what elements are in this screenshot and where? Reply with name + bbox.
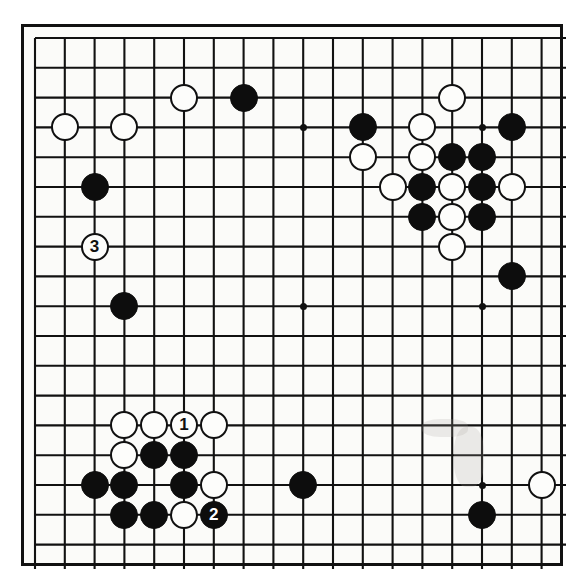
stone-black[interactable]: [230, 84, 258, 112]
star-point: [479, 303, 486, 310]
stone-black[interactable]: [110, 501, 138, 529]
go-board[interactable]: 312: [21, 24, 563, 566]
stone-black[interactable]: [468, 501, 496, 529]
star-point: [300, 303, 307, 310]
stone-white[interactable]: [528, 471, 556, 499]
move-stone-black-2[interactable]: 2: [200, 501, 228, 529]
star-point: [300, 124, 307, 131]
stone-black[interactable]: [81, 471, 109, 499]
stone-black[interactable]: [408, 203, 436, 231]
stone-black[interactable]: [468, 143, 496, 171]
stone-white[interactable]: [379, 173, 407, 201]
stone-white[interactable]: [498, 173, 526, 201]
move-number-label: 1: [172, 413, 196, 437]
move-stone-white-3[interactable]: 3: [81, 233, 109, 261]
move-number-label: 2: [201, 502, 227, 528]
stone-black[interactable]: [468, 203, 496, 231]
move-number-label: 3: [83, 235, 107, 259]
stone-white[interactable]: [438, 233, 466, 261]
stone-white[interactable]: [51, 113, 79, 141]
stone-black[interactable]: [289, 471, 317, 499]
star-point: [479, 124, 486, 131]
stone-black[interactable]: [140, 501, 168, 529]
stone-black[interactable]: [349, 113, 377, 141]
stone-black[interactable]: [468, 173, 496, 201]
stone-white[interactable]: [438, 203, 466, 231]
star-point: [479, 482, 486, 489]
go-diagram-page: 312: [0, 0, 571, 586]
stone-black[interactable]: [81, 173, 109, 201]
stone-white[interactable]: [200, 471, 228, 499]
stone-black[interactable]: [170, 471, 198, 499]
stone-white[interactable]: [170, 501, 198, 529]
stone-white[interactable]: [438, 173, 466, 201]
paper-smudge-2: [454, 427, 484, 487]
stone-black[interactable]: [498, 262, 526, 290]
stone-white[interactable]: [349, 143, 377, 171]
stone-white[interactable]: [438, 84, 466, 112]
stone-white[interactable]: [170, 84, 198, 112]
stone-white[interactable]: [200, 411, 228, 439]
stone-black[interactable]: [170, 441, 198, 469]
stone-black[interactable]: [498, 113, 526, 141]
